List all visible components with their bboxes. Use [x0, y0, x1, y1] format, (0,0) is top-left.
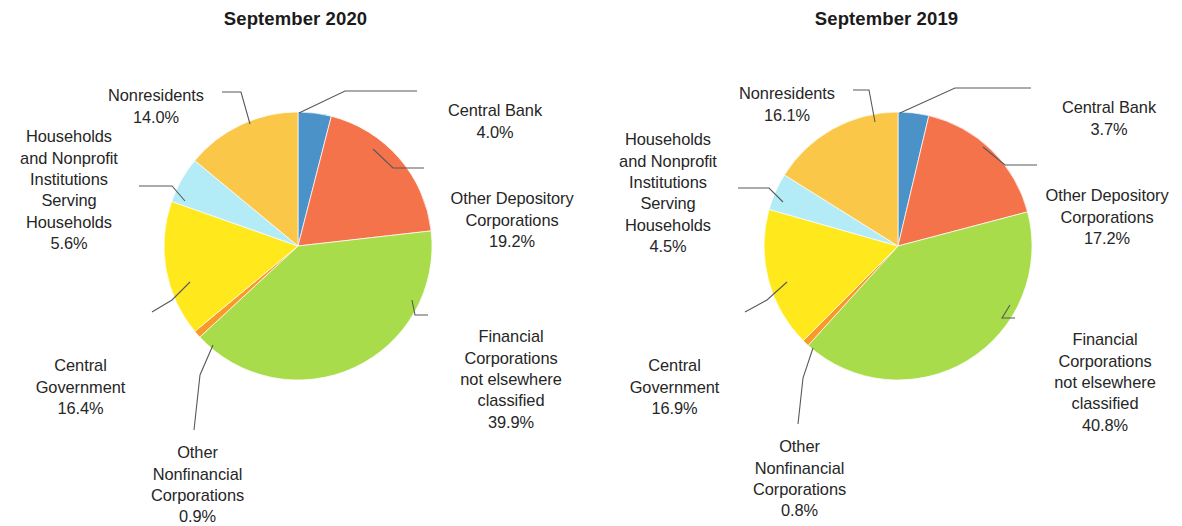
label-other-nonfinancial-left-pct: 0.9%: [130, 506, 265, 526]
label-other-nonfinancial-left: Other Nonfinancial Corporations 0.9%: [130, 421, 265, 526]
label-other-nonfinancial-right-name: Other Nonfinancial Corporations: [753, 437, 846, 498]
label-other-depository-left-pct: 19.2%: [432, 231, 592, 252]
label-central-government-right-name: Central Government: [630, 356, 720, 395]
label-households-right: Households and Nonprofit Institutions Se…: [601, 108, 735, 279]
label-nonresidents-right-name: Nonresidents: [739, 84, 835, 102]
label-financial-nec-left-name: Financial Corporations not elsewhere cla…: [460, 327, 561, 409]
leader-nonresidents: [222, 92, 250, 124]
label-central-government-left-name: Central Government: [36, 356, 126, 395]
label-other-nonfinancial-left-name: Other Nonfinancial Corporations: [151, 443, 244, 504]
label-other-depository-right: Other Depository Corporations 17.2%: [1032, 164, 1182, 271]
label-other-nonfinancial-right-pct: 0.8%: [732, 500, 867, 521]
label-central-bank-right: Central Bank 3.7%: [1039, 76, 1179, 161]
label-nonresidents-left-name: Nonresidents: [108, 86, 204, 104]
label-central-government-right: Central Government 16.9%: [607, 334, 742, 441]
label-financial-nec-right-name: Financial Corporations not elsewhere cla…: [1054, 330, 1155, 412]
label-central-government-right-pct: 16.9%: [607, 398, 742, 419]
label-nonresidents-left-pct: 14.0%: [95, 107, 217, 128]
label-other-depository-right-pct: 17.2%: [1032, 228, 1182, 249]
leader-other-nonfinancial: [798, 348, 813, 424]
pie-slices-right: Central Bank 3.7%Other Depository Corpor…: [764, 112, 1032, 380]
pie-slices-left: Central Bank 4.0%Other Depository Corpor…: [164, 112, 432, 380]
label-nonresidents-right: Nonresidents 16.1%: [726, 62, 848, 147]
label-other-depository-left: Other Depository Corporations 19.2%: [432, 167, 592, 274]
label-households-right-pct: 4.5%: [601, 236, 735, 257]
chart-panel-september-2020: September 2020 Central Bank 4.0%Other De…: [0, 0, 591, 498]
label-central-government-left: Central Government 16.4%: [13, 334, 148, 441]
label-financial-nec-left: Financial Corporations not elsewhere cla…: [436, 305, 586, 454]
label-financial-nec-left-pct: 39.9%: [436, 412, 586, 433]
label-other-depository-right-name: Other Depository Corporations: [1045, 186, 1168, 225]
label-central-bank-left: Central Bank 4.0%: [425, 79, 565, 164]
label-nonresidents-right-pct: 16.1%: [726, 105, 848, 126]
leader-central-bank: [299, 91, 417, 113]
label-nonresidents-left: Nonresidents 14.0%: [95, 64, 217, 149]
label-households-left-pct: 5.6%: [2, 233, 136, 254]
label-other-nonfinancial-right: Other Nonfinancial Corporations 0.8%: [732, 415, 867, 526]
label-central-government-left-pct: 16.4%: [13, 398, 148, 419]
label-financial-nec-right: Financial Corporations not elsewhere cla…: [1030, 308, 1180, 457]
label-financial-nec-right-pct: 40.8%: [1030, 415, 1180, 436]
chart-panel-september-2019: September 2019 Central Bank 3.7%Other De…: [591, 0, 1182, 498]
label-central-bank-right-name: Central Bank: [1062, 98, 1156, 116]
leader-central-bank: [900, 88, 1031, 113]
label-households-right-name: Households and Nonprofit Institutions Se…: [619, 130, 717, 233]
label-central-bank-left-name: Central Bank: [448, 101, 542, 119]
label-central-bank-left-pct: 4.0%: [425, 122, 565, 143]
leader-other-nonfinancial: [194, 345, 213, 430]
label-central-bank-right-pct: 3.7%: [1039, 119, 1179, 140]
label-other-depository-left-name: Other Depository Corporations: [450, 189, 573, 228]
